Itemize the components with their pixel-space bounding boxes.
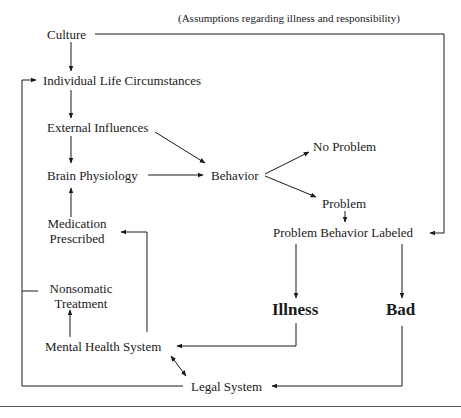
edge-label-assumptions: (Assumptions regarding illness and respo… [178,11,400,26]
arrow-mhs-legal [171,356,186,376]
node-illness: Illness [272,302,318,317]
node-problem: Problem [322,196,366,211]
node-medication-line2: Prescribed [44,231,110,246]
node-individual-life: Individual Life Circumstances [43,73,201,88]
arrow-behavior-problem [265,176,316,197]
arrow-illness-mhs [177,323,296,346]
node-medication-line1: Medication [44,216,110,231]
arrow-bad-legal [272,326,402,386]
node-external-influences: External Influences [47,120,148,135]
node-no-problem: No Problem [313,139,376,154]
node-mental-health-system: Mental Health System [45,339,161,354]
arrow-mhs-medication [121,232,147,332]
arrow-external-behavior [155,132,205,163]
node-brain-physiology: Brain Physiology [47,168,138,183]
node-nonsomatic-treatment: Nonsomatic Treatment [45,281,117,311]
node-medication-prescribed: Medication Prescribed [44,216,110,246]
node-culture: Culture [47,27,86,42]
node-nonsomatic-line2: Treatment [45,296,117,311]
diagram-connectors [0,0,461,418]
bottom-rule [0,406,461,407]
arrow-behavior-noproblem [265,152,309,174]
node-nonsomatic-line1: Nonsomatic [45,281,117,296]
node-problem-behavior-labeled: Problem Behavior Labeled [273,225,413,240]
node-bad: Bad [386,302,415,317]
node-legal-system: Legal System [191,379,262,394]
node-behavior: Behavior [211,168,259,183]
